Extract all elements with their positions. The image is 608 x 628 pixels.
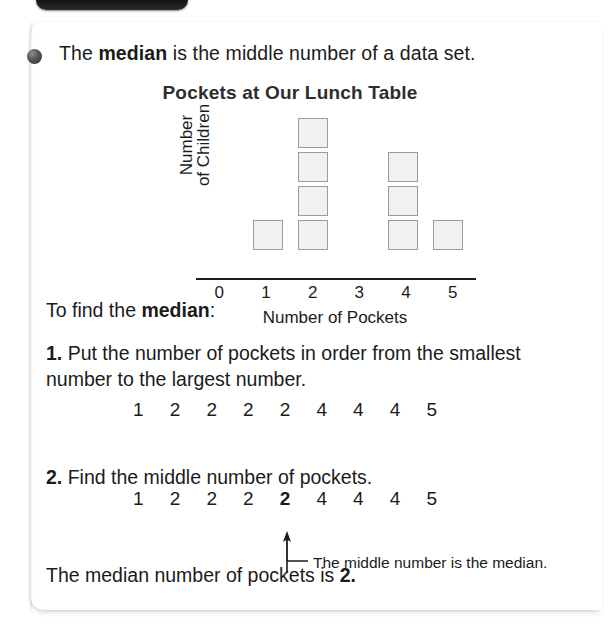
conclusion-sentence: The median number of pockets is 2. [46,564,356,587]
chart-stack-2 [298,114,328,250]
sequence-number: 2 [157,488,194,510]
procedure-step-1: 1. Put the number of pockets in order fr… [46,340,526,393]
sequence-number: 2 [193,399,230,421]
chart-unit-box [298,118,328,148]
sequence-number: 4 [340,399,377,421]
chart-title: Pockets at Our Lunch Table [30,82,550,104]
chart-unit-box [298,220,328,250]
median-sequence-row: 122224445 [120,488,450,510]
dark-tab[interactable] [36,0,188,10]
chart-unit-box [433,220,463,250]
bullet-sphere-icon [27,49,42,64]
chart-unit-box [298,152,328,182]
step-2-number: 2. [46,466,62,488]
procedure-heading: To find the median: [46,299,215,322]
sequence-number: 4 [377,399,414,421]
x-tick-2: 2 [289,283,336,303]
chart-unit-box [388,152,418,182]
procedure-heading-term: median [141,299,209,321]
chart-stack-5 [433,216,463,250]
sequence-number: 1 [120,488,157,510]
intro-text-after: is the middle number of a data set. [167,42,475,64]
x-tick-4: 4 [383,283,430,303]
sequence-number: 1 [120,399,157,421]
intro-term-median: median [98,42,167,64]
y-axis-label-line-1: Number [178,115,195,175]
procedure-step-2: 2. Find the middle number of pockets. [46,464,526,490]
x-tick-3: 3 [336,283,383,303]
conclusion-after: . [351,564,356,586]
sequence-number: 4 [377,488,414,510]
x-axis-line [196,278,476,280]
step-1-text: Put the number of pockets in order from … [46,342,521,390]
lesson-card: The median is the middle number of a dat… [30,22,602,610]
procedure-heading-after: : [210,299,215,321]
step-1-number: 1. [46,342,62,364]
chart-plot-area [200,110,470,250]
pictograph-chart: Pockets at Our Lunch Table Number of Chi… [30,82,602,307]
sequence-number: 2 [230,399,267,421]
chart-unit-box [253,220,283,250]
conclusion-value: 2 [340,564,351,586]
intro-text-before: The [59,42,98,64]
step-2-text: Find the middle number of pockets. [68,466,373,488]
ordered-sequence-row: 122224445 [120,399,450,421]
sequence-number: 4 [340,488,377,510]
x-axis-tick-labels: 012345 [196,283,476,303]
sequence-number: 4 [303,488,340,510]
sequence-number: 2 [230,488,267,510]
sequence-number: 2 [267,488,304,510]
sequence-number: 2 [267,399,304,421]
chart-unit-box [388,186,418,216]
chart-unit-box [298,186,328,216]
x-tick-5: 5 [429,283,476,303]
sequence-number: 4 [303,399,340,421]
chart-unit-box [388,220,418,250]
sequence-number: 5 [413,488,450,510]
chart-stack-1 [253,216,283,250]
procedure-heading-before: To find the [46,299,141,321]
x-tick-1: 1 [243,283,290,303]
sequence-number: 2 [157,399,194,421]
conclusion-before: The median number of pockets is [46,564,340,586]
chart-stack-4 [388,148,418,250]
sequence-number: 2 [193,488,230,510]
intro-sentence: The median is the middle number of a dat… [59,42,475,65]
sequence-number: 5 [413,399,450,421]
